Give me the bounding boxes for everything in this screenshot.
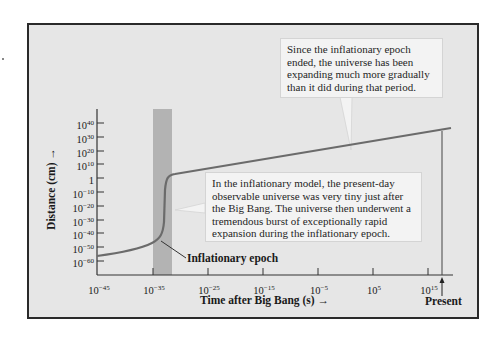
y-ticks (97, 123, 104, 261)
y-tick-label-1e30: 1030 (54, 131, 94, 146)
x-ticks (153, 268, 428, 275)
y-tick-label-1e40: 1040 (54, 117, 94, 132)
x-tick-label-1e5: 105 (354, 282, 394, 297)
y-tick-label-1e10: 1010 (54, 158, 94, 173)
y-tick-label-1e-10: 10−10 (54, 186, 94, 201)
present-label: Present (425, 295, 462, 307)
x-tick-label-1e-45: 10−45 (79, 282, 119, 297)
callout-inflation-model: In the inflationary model, the present-d… (205, 172, 422, 242)
y-tick-label-1e-20: 10−20 (54, 200, 94, 215)
y-tick-label-1e-50: 10−50 (54, 241, 94, 256)
x-tick-label-1e-35: 10−35 (134, 282, 174, 297)
callout-top-tail (340, 97, 352, 150)
y-tick-label-1: 1 (54, 172, 94, 187)
inflationary-epoch-label: Inflationary epoch (187, 252, 278, 264)
callout-post-inflation: Since the inflationary epoch ended, the … (280, 38, 443, 98)
inflationary-epoch-band (153, 109, 172, 275)
y-tick-label-1e-40: 10−40 (54, 227, 94, 242)
x-axis-label: Time after Big Bang (s) → (200, 294, 329, 306)
callout-bottom-tail (175, 203, 205, 213)
y-tick-label-1e-60: 10−60 (54, 255, 94, 270)
y-axis-label: Distance (cm) → (45, 148, 57, 230)
